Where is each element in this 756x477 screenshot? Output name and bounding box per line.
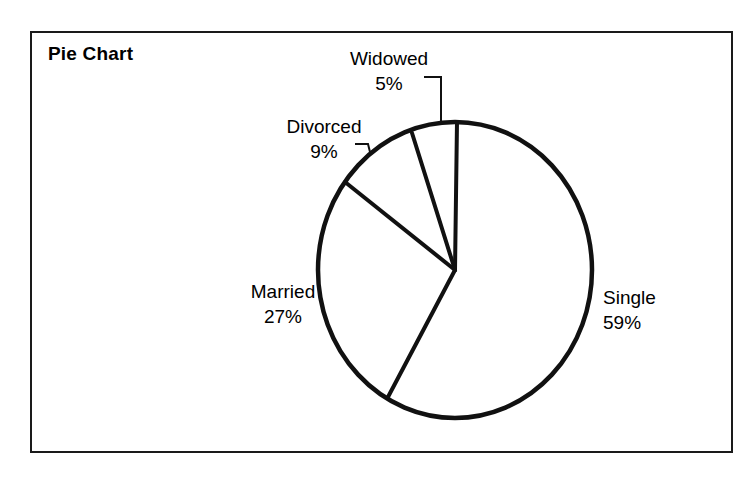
slice-label-married-name: Married [228,279,338,304]
slice-label-single: Single 59% [603,285,713,335]
slice-label-widowed-name: Widowed [330,46,448,71]
slice-divider-widowed-single [455,122,457,270]
slice-label-divorced-name: Divorced [265,114,383,139]
slice-label-single-percent: 59% [603,310,713,335]
slice-label-single-name: Single [603,285,713,310]
slice-label-divorced-percent: 9% [265,139,383,164]
slice-label-married-percent: 27% [228,304,338,329]
slice-label-divorced: Divorced 9% [265,114,383,164]
slice-label-married: Married 27% [228,279,338,329]
chart-page: Pie Chart Widowed 5% Divorced 9% Married… [0,0,756,477]
slice-label-widowed-percent: 5% [330,71,448,96]
slice-label-widowed: Widowed 5% [330,46,448,96]
